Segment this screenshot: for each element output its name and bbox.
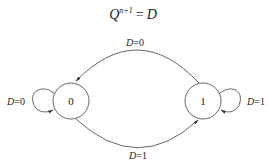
label-1-to-1: D=1: [246, 96, 265, 107]
self-loop-0: [33, 89, 55, 112]
equation-lhs-sup: n+1: [119, 6, 132, 15]
transition-1-to-0: [76, 50, 199, 83]
equation-rhs: D: [146, 7, 157, 22]
equation-equals: =: [136, 7, 144, 22]
label-0-to-0: D=0: [6, 96, 25, 107]
label-0-to-1: D=1: [128, 150, 147, 161]
transition-0-to-1: [76, 119, 198, 148]
label-1-to-0: D=0: [125, 37, 144, 48]
self-loop-1: [219, 89, 240, 112]
state-1-label: 1: [200, 95, 206, 107]
equation-lhs-var: Q: [109, 7, 119, 22]
equation: Qn+1=D: [109, 6, 157, 22]
state-diagram: Qn+1=D D=0 D=1 D=0 D=1 0 1: [0, 0, 267, 167]
state-0-label: 0: [68, 95, 74, 107]
